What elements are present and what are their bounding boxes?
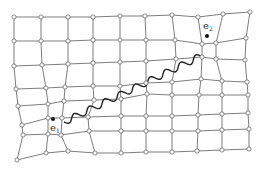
lattice-node xyxy=(118,84,122,88)
lattice-node xyxy=(247,147,251,151)
lattice-edge xyxy=(198,130,222,131)
lattice-node xyxy=(221,12,225,16)
lattice-node xyxy=(12,39,16,43)
lattice-node xyxy=(170,150,174,154)
lattice-edge xyxy=(17,135,23,160)
lattice-edge xyxy=(176,57,202,59)
lattice-node xyxy=(144,38,148,42)
lattice-node xyxy=(197,93,201,97)
defect-markers: e2e1 xyxy=(50,20,213,134)
lattice-edge xyxy=(216,14,223,43)
lattice-node xyxy=(220,93,224,97)
lattice-edge xyxy=(121,152,146,153)
lattice-edge xyxy=(89,131,95,153)
lattice-edge xyxy=(14,66,16,89)
lattice-edge xyxy=(223,12,250,14)
lattice-node xyxy=(91,38,95,42)
defect-e2-label: e2 xyxy=(203,20,213,32)
lattice-edge xyxy=(147,94,172,95)
lattice-node xyxy=(66,62,70,66)
lattice-edge xyxy=(88,100,94,117)
lattice-node xyxy=(15,158,19,162)
lattice-edge xyxy=(46,151,68,153)
lattice-node xyxy=(14,87,18,91)
lattice-edge xyxy=(198,17,202,44)
lattice-edge xyxy=(68,151,95,153)
lattice-edge xyxy=(18,106,22,125)
lattice-edge xyxy=(146,94,147,116)
lattice-edge xyxy=(22,118,48,125)
lattice-node xyxy=(40,63,44,67)
lattice-node xyxy=(220,112,224,116)
lattice-node xyxy=(244,36,248,40)
lattice-node xyxy=(195,149,199,153)
lattice-edge xyxy=(18,104,48,106)
lattice-edge xyxy=(197,150,222,151)
lattice-node xyxy=(119,114,123,118)
lattice-node xyxy=(170,114,174,118)
lattice-edge xyxy=(198,95,199,115)
lattice-edge xyxy=(145,15,172,16)
lattice-node xyxy=(16,104,20,108)
lattice-edge xyxy=(146,59,176,61)
lattice-edge xyxy=(62,117,88,118)
lattice-edge xyxy=(172,15,198,17)
lattice-node xyxy=(118,14,122,18)
defect-e2-marker xyxy=(205,34,209,38)
lattice-node xyxy=(92,98,96,102)
lattice-node xyxy=(214,41,218,45)
lattice-edge xyxy=(197,131,198,151)
lattice-edge xyxy=(245,60,247,82)
lattice-node xyxy=(46,102,50,106)
lattice-node xyxy=(46,116,50,120)
lattice-edge xyxy=(245,38,246,60)
lattice-node xyxy=(91,61,95,65)
lattice-edge xyxy=(146,82,172,83)
lattice-node xyxy=(60,116,64,120)
lattice-node xyxy=(86,115,90,119)
lattice-edge xyxy=(65,64,68,87)
lattice-edge xyxy=(216,59,222,81)
lattice-edge xyxy=(216,38,246,43)
lattice-nodes xyxy=(12,10,252,162)
lattice-node xyxy=(245,80,249,84)
lattice-node xyxy=(91,15,95,19)
lattice-edge xyxy=(64,100,94,101)
lattice-diagram: e2e1 xyxy=(0,0,263,174)
lattice-node xyxy=(144,114,148,118)
lattice-node xyxy=(12,15,16,19)
lattice-node xyxy=(144,81,148,85)
lattice-node xyxy=(20,123,24,127)
lattice-edge xyxy=(172,59,176,82)
lattice-edge xyxy=(198,14,223,17)
lattice-node xyxy=(248,10,252,14)
lattice-node xyxy=(144,150,148,154)
lattice-node xyxy=(220,148,224,152)
lattice-node xyxy=(170,80,174,84)
lattice-edge xyxy=(172,151,197,152)
lattice-node xyxy=(143,14,147,18)
lattice-node xyxy=(21,133,25,137)
lattice-edge xyxy=(88,116,121,117)
lattice-edge xyxy=(198,114,222,115)
lattice-edge xyxy=(222,113,248,114)
lattice-node xyxy=(66,149,70,153)
lattice-node xyxy=(196,129,200,133)
lattice-edges xyxy=(14,12,250,160)
lattice-edge xyxy=(201,57,202,79)
lattice-node xyxy=(246,93,250,97)
lattice-node xyxy=(174,57,178,61)
lattice-node xyxy=(118,60,122,64)
lattice-edge xyxy=(16,89,18,106)
lattice-node xyxy=(145,92,149,96)
wavy-connection-line xyxy=(64,55,201,124)
lattice-node xyxy=(220,79,224,83)
lattice-edge xyxy=(61,118,62,135)
lattice-node xyxy=(12,64,16,68)
lattice-edge xyxy=(42,64,68,65)
lattice-edge xyxy=(23,134,48,135)
lattice-edge xyxy=(68,40,93,41)
lattice-edge xyxy=(172,15,175,40)
lattice-node xyxy=(200,55,204,59)
lattice-edge xyxy=(222,129,249,130)
